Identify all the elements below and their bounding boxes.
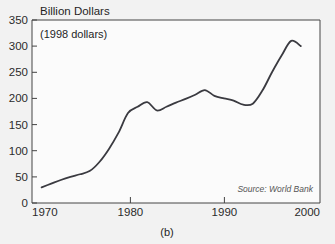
y-tick-label: 350 bbox=[9, 14, 28, 26]
y-tick-label: 300 bbox=[9, 40, 28, 52]
figure-panel: 0 50 100 150 200 250 300 350 1970 1980 1… bbox=[0, 0, 335, 244]
y-axis-tick-labels: 0 50 100 150 200 250 300 350 bbox=[9, 14, 28, 209]
x-tick-label: 1970 bbox=[32, 206, 58, 218]
x-axis-tick-labels: 1970 1980 1990 2000 bbox=[32, 206, 320, 218]
x-tick-label: 2000 bbox=[294, 206, 320, 218]
panel-caption: (b) bbox=[160, 226, 173, 238]
y-tick-label: 250 bbox=[9, 66, 28, 78]
y-tick-label: 50 bbox=[15, 171, 28, 183]
y-tick-label: 150 bbox=[9, 119, 28, 131]
x-tick-label: 1990 bbox=[212, 206, 238, 218]
line-chart: 0 50 100 150 200 250 300 350 1970 1980 1… bbox=[0, 0, 335, 244]
chart-title: Billion Dollars bbox=[40, 5, 110, 17]
x-tick-label: 1980 bbox=[118, 206, 144, 218]
chart-subtitle: (1998 dollars) bbox=[40, 28, 107, 40]
y-tick-label: 0 bbox=[22, 197, 28, 209]
y-tick-label: 200 bbox=[9, 92, 28, 104]
y-tick-label: 100 bbox=[9, 145, 28, 157]
source-note: Source: World Bank bbox=[237, 184, 313, 194]
